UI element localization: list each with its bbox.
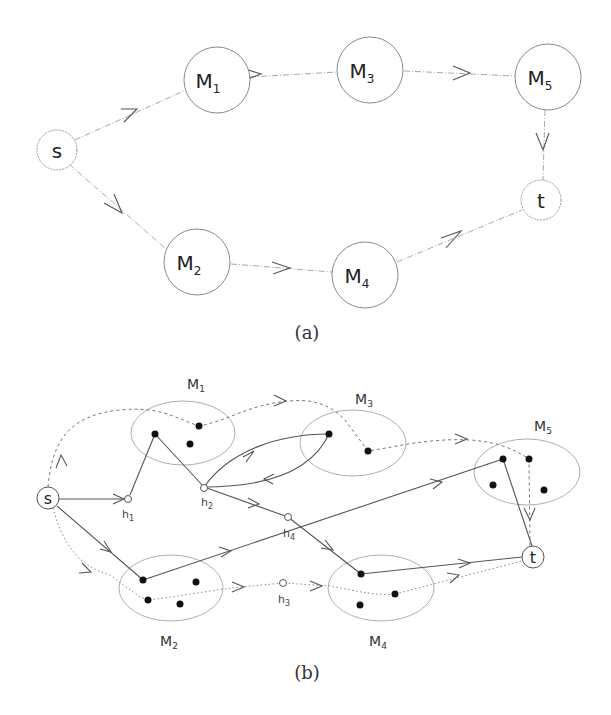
svg-text:h3: h3 <box>278 593 290 608</box>
terminal-s-label: s <box>44 489 52 508</box>
solid-edge-m2-m5 <box>143 459 503 580</box>
cluster-m5-points <box>490 456 548 494</box>
node-m1: M1 <box>184 47 250 113</box>
edge-m3-m5 <box>404 71 515 76</box>
cluster-m3-subscript: 3 <box>367 399 373 409</box>
dashed-path-upper <box>48 401 530 546</box>
solid-edge-h4-m4 <box>288 517 361 574</box>
hub-h3 <box>280 580 287 587</box>
cluster-m5-subscript: 5 <box>546 426 552 436</box>
terminal-t-label: t <box>530 548 536 567</box>
arrow-icon <box>274 395 286 406</box>
cluster-m5 <box>474 439 580 505</box>
arrow-icon <box>453 66 470 80</box>
solid-edge-m3-h2 <box>204 434 329 487</box>
node-s-label: s <box>52 139 62 163</box>
cluster-m1-subscript: 1 <box>199 384 205 394</box>
terminal-t: t <box>522 546 544 568</box>
node-m3: M3 <box>337 37 403 103</box>
solid-edge-h2-m3 <box>204 434 329 487</box>
node-m5-subscript: 5 <box>545 79 553 93</box>
node-s: s <box>37 130 77 170</box>
svg-text:M3: M3 <box>355 391 373 409</box>
arrow-icon <box>310 581 322 591</box>
node-m5: M5 <box>515 44 581 110</box>
hub-h1 <box>125 496 132 503</box>
cluster-m2-label: M <box>160 633 172 649</box>
figure-a-edges <box>69 66 549 274</box>
hub-h4-subscript: 4 <box>290 533 295 542</box>
node-m3-label: M <box>350 59 367 83</box>
node-m2-label: M <box>177 251 194 275</box>
figure-canvas: s M1 M3 M5 t M2 M4 (a) <box>0 0 611 715</box>
svg-text:h2: h2 <box>201 496 213 511</box>
dotted-path-lower <box>53 508 522 600</box>
node-t-label: t <box>537 189 545 213</box>
node-m2-subscript: 2 <box>194 264 202 278</box>
solid-edge-m1-h2 <box>155 434 204 487</box>
cluster-m3-label: M <box>355 391 367 407</box>
caption-a: (a) <box>295 322 320 343</box>
cluster-m4 <box>328 555 434 621</box>
hub-h1-label: h <box>122 508 129 521</box>
edge-m1-m3 <box>250 72 337 77</box>
hub-h2-label: h <box>201 496 208 509</box>
arrow-icon <box>536 133 549 150</box>
cluster-m3-points <box>326 431 372 455</box>
node-t: t <box>521 180 561 220</box>
cluster-m4-label: M <box>369 633 381 649</box>
cluster-m4-subscript: 4 <box>381 641 387 651</box>
arrow-icon <box>56 455 67 468</box>
node-m1-subscript: 1 <box>213 82 221 96</box>
node-m4: M4 <box>332 242 398 308</box>
arrow-icon <box>321 540 333 550</box>
hub-h1-subscript: 1 <box>129 514 134 523</box>
solid-edge-h2-h4 <box>204 487 288 517</box>
hub-h3-label: h <box>278 593 285 606</box>
node-m3-subscript: 3 <box>367 72 375 86</box>
node-m4-subscript: 4 <box>362 277 370 291</box>
cluster-m5-label: M <box>534 418 546 434</box>
hub-h4-label: h <box>283 527 290 540</box>
edge-m4-t <box>397 210 522 262</box>
svg-text:M5: M5 <box>534 418 552 436</box>
cluster-m2-subscript: 2 <box>172 641 178 651</box>
cluster-m3 <box>300 410 406 476</box>
node-m5-label: M <box>528 66 545 90</box>
hub-h4 <box>285 514 292 521</box>
svg-text:h1: h1 <box>122 508 134 523</box>
figure-a: s M1 M3 M5 t M2 M4 (a) <box>37 37 581 343</box>
figure-b: h1 h2 h3 h4 s t M1 M3 M5 M2 M4 (b) <box>37 376 580 683</box>
hub-h2 <box>201 485 208 492</box>
svg-text:M4: M4 <box>369 633 387 651</box>
cluster-m2 <box>119 555 223 621</box>
edge-s-m2 <box>69 164 165 248</box>
svg-text:M1: M1 <box>187 376 205 394</box>
hub-h3-subscript: 3 <box>285 599 290 608</box>
cluster-m4-points <box>357 571 399 609</box>
arrow-icon <box>455 434 467 444</box>
terminal-s: s <box>37 487 59 509</box>
cluster-m2-points <box>140 577 200 608</box>
hub-h2-subscript: 2 <box>208 502 213 511</box>
svg-text:M2: M2 <box>160 633 178 651</box>
caption-b: (b) <box>294 662 320 683</box>
arrow-icon <box>79 563 91 573</box>
solid-edge-m4-t <box>361 557 522 574</box>
node-m4-label: M <box>345 264 362 288</box>
arrow-icon <box>100 541 111 552</box>
arrow-icon <box>447 573 459 583</box>
cluster-m1-points <box>152 423 203 448</box>
cluster-m1-label: M <box>187 376 199 392</box>
arrow-icon <box>104 194 122 213</box>
node-m2: M2 <box>164 229 230 295</box>
node-m1-label: M <box>196 69 213 93</box>
